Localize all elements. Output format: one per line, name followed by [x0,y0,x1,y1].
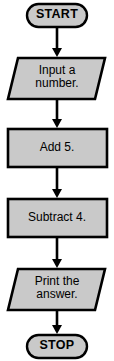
node-subtract-four-process[interactable] [8,199,107,237]
flowchart-diagram [0,0,114,361]
node-add-five-process[interactable] [8,129,107,167]
node-start-terminator[interactable] [27,4,87,27]
node-input-number-parallelogram[interactable] [8,58,105,99]
node-stop-terminator[interactable] [27,335,87,358]
node-print-answer-parallelogram[interactable] [8,269,105,310]
